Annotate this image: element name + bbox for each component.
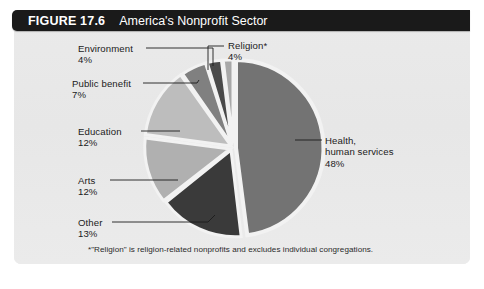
label-health-line1: Health, (325, 135, 356, 146)
label-religion: Religion* 4% (228, 40, 267, 63)
figure-title: America's Nonprofit Sector (119, 14, 267, 28)
label-environment-pct: 4% (78, 54, 133, 65)
label-arts-pct: 12% (78, 186, 98, 197)
label-public-benefit: Public benefit 7% (72, 78, 131, 101)
label-health-line2: human services (325, 146, 394, 157)
label-public-benefit-pct: 7% (72, 89, 131, 100)
label-education: Education 12% (78, 126, 122, 149)
label-religion-name: Religion* (228, 40, 267, 51)
label-health-human-services: Health, human services 48% (325, 135, 394, 169)
label-arts: Arts 12% (78, 175, 98, 198)
label-other-pct: 13% (78, 228, 103, 239)
label-education-name: Education (78, 126, 122, 137)
figure-title-bar: FIGURE 17.6 America's Nonprofit Sector (12, 10, 470, 31)
label-education-pct: 12% (78, 137, 122, 148)
label-other: Other 13% (78, 217, 103, 240)
label-health-pct: 48% (325, 158, 394, 169)
label-environment-name: Environment (78, 43, 133, 54)
label-religion-pct: 4% (228, 51, 267, 62)
label-environment: Environment 4% (78, 43, 133, 66)
label-other-name: Other (78, 217, 103, 228)
label-arts-name: Arts (78, 175, 95, 186)
label-public-benefit-name: Public benefit (72, 78, 131, 89)
figure-number: FIGURE 17.6 (28, 14, 105, 28)
figure-footnote: *"Religion" is religion-related nonprofi… (88, 245, 373, 254)
